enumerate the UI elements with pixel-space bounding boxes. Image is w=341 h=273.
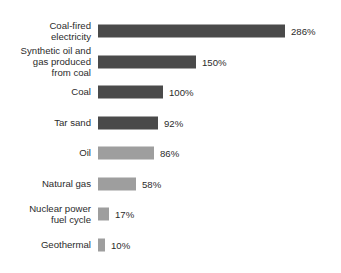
value-label: 86% xyxy=(160,147,179,160)
category-label: Geothermal xyxy=(0,239,91,250)
bar xyxy=(98,116,158,129)
value-label: 10% xyxy=(111,238,130,251)
bar-group: 100% xyxy=(98,86,194,99)
bar-group: 92% xyxy=(98,116,183,129)
chart-row: Nuclear power fuel cycle17% xyxy=(0,199,341,229)
category-label: Oil xyxy=(0,147,91,158)
bar-group: 17% xyxy=(98,208,134,221)
chart-row: Synthetic oil and gas produced from coal… xyxy=(0,47,341,77)
bar xyxy=(98,238,105,251)
category-label: Nuclear power fuel cycle xyxy=(0,203,91,225)
bar xyxy=(98,55,196,68)
category-label: Coal-fired electricity xyxy=(0,20,91,42)
chart-row: Natural gas58% xyxy=(0,169,341,199)
bar-group: 150% xyxy=(98,55,227,68)
bar xyxy=(98,177,136,190)
chart-row: Oil86% xyxy=(0,138,341,168)
chart-row: Geothermal10% xyxy=(0,230,341,260)
bar xyxy=(98,25,285,38)
value-label: 150% xyxy=(202,55,227,68)
value-label: 92% xyxy=(164,116,183,129)
value-label: 17% xyxy=(115,208,134,221)
bar-group: 86% xyxy=(98,147,179,160)
bar xyxy=(98,147,154,160)
chart-row: Coal100% xyxy=(0,77,341,107)
chart-row: Coal-fired electricity286% xyxy=(0,16,341,46)
category-label: Coal xyxy=(0,86,91,97)
chart-row: Tar sand92% xyxy=(0,108,341,138)
category-label: Tar sand xyxy=(0,117,91,128)
category-label: Natural gas xyxy=(0,178,91,189)
value-label: 58% xyxy=(142,177,161,190)
bar-chart: Coal-fired electricity286%Synthetic oil … xyxy=(0,0,341,273)
category-label: Synthetic oil and gas produced from coal xyxy=(0,45,91,79)
value-label: 100% xyxy=(169,86,194,99)
value-label: 286% xyxy=(291,25,316,38)
bar-group: 58% xyxy=(98,177,161,190)
bar xyxy=(98,208,109,221)
bar-group: 10% xyxy=(98,238,130,251)
bar-group: 286% xyxy=(98,25,316,38)
bar xyxy=(98,86,163,99)
